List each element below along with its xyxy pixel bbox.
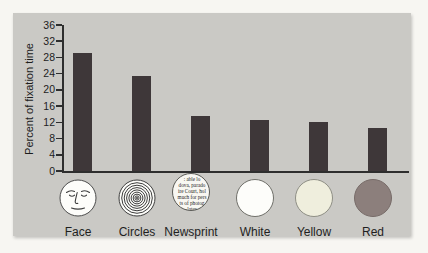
y-tick-label: 20	[25, 84, 55, 95]
face-icon	[59, 179, 97, 217]
y-tick-label: 4	[25, 149, 55, 160]
white-disc-icon	[236, 179, 274, 217]
bar-face	[73, 53, 92, 171]
bar-newsprint	[191, 116, 210, 171]
yellow-disc-icon	[295, 179, 333, 217]
newsprint-icon: : able lo dova, parado ire Court, hol mu…	[172, 173, 210, 211]
y-tick-mark	[56, 89, 62, 91]
y-tick-label: 8	[25, 133, 55, 144]
y-tick-label: 24	[25, 68, 55, 79]
y-tick-mark	[56, 105, 62, 107]
y-tick-label: 12	[25, 117, 55, 128]
category-label-red: Red	[333, 225, 413, 239]
y-tick-mark	[56, 154, 62, 156]
y-tick-mark	[56, 57, 62, 59]
y-tick-label: 0	[25, 166, 55, 177]
bar-yellow	[309, 122, 328, 171]
y-axis-line	[62, 25, 64, 172]
red-disc-icon	[354, 179, 392, 217]
figure: Percent of fixation time 048121620242832…	[0, 0, 428, 253]
concentric-circles-icon	[118, 179, 156, 217]
bar-white	[250, 120, 269, 171]
y-tick-mark	[56, 40, 62, 42]
y-tick-mark	[56, 24, 62, 26]
y-tick-label: 36	[25, 20, 55, 31]
newsprint-text: : able lo dova, parado ire Court, hol mu…	[172, 173, 210, 211]
chart-panel: Percent of fixation time 048121620242832…	[13, 13, 411, 236]
y-tick-label: 16	[25, 101, 55, 112]
y-tick-label: 32	[25, 36, 55, 47]
x-axis-baseline	[62, 171, 409, 173]
y-tick-mark	[56, 170, 62, 172]
bar-red	[368, 128, 387, 171]
y-tick-mark	[56, 122, 62, 124]
y-tick-label: 28	[25, 52, 55, 63]
y-tick-mark	[56, 138, 62, 140]
bar-circles	[132, 76, 151, 171]
y-tick-mark	[56, 73, 62, 75]
